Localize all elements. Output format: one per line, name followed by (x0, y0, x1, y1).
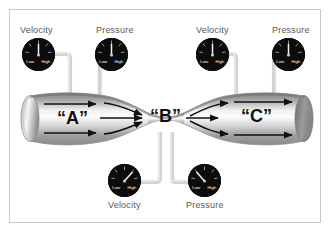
section-label-a: “A” (57, 108, 88, 129)
gauge-label-top-left-pressure: Pressure (96, 25, 134, 35)
gauge-label-bottom-pressure: Pressure (186, 200, 224, 210)
gauge-scale-high-top-right-pressure: High (291, 59, 300, 64)
gauge-top-left-velocity[interactable]: Low High (22, 38, 55, 71)
gauge-label-top-right-velocity: Velocity (196, 25, 229, 35)
gauge-label-top-right-pressure: Pressure (272, 25, 310, 35)
gauge-top-right-pressure[interactable]: Low High (272, 38, 305, 71)
section-label-c: “C” (241, 106, 272, 127)
gauge-scale-high-bottom-pressure: High (207, 185, 216, 190)
gauge-scale-high-top-left-pressure: High (114, 59, 123, 64)
gauge-scale-low-top-right-velocity: Low (200, 59, 209, 64)
gauge-top-left-pressure[interactable]: Low High (95, 38, 128, 71)
gauge-scale-low-top-right-pressure: Low (276, 59, 285, 64)
gauge-scale-high-top-right-velocity: High (215, 59, 224, 64)
gauge-top-right-velocity[interactable]: Low High (196, 38, 229, 71)
gauge-label-bottom-velocity: Velocity (108, 200, 141, 210)
section-label-b: “B” (150, 106, 181, 127)
gauge-scale-low-bottom-pressure: Low (192, 185, 201, 190)
diagram-canvas: “A” “B” “C” Velocity Low High Pressure (0, 0, 332, 234)
gauge-bottom-pressure[interactable]: Low High (188, 164, 221, 197)
gauge-scale-high-top-left-velocity: High (41, 59, 50, 64)
gauge-scale-low-top-left-pressure: Low (99, 59, 108, 64)
gauge-scale-low-bottom-velocity: Low (112, 185, 121, 190)
gauge-bottom-velocity[interactable]: Low High (108, 164, 141, 197)
gauge-label-top-left-velocity: Velocity (20, 25, 53, 35)
gauge-scale-high-bottom-velocity: High (127, 185, 136, 190)
gauge-scale-low-top-left-velocity: Low (26, 59, 35, 64)
